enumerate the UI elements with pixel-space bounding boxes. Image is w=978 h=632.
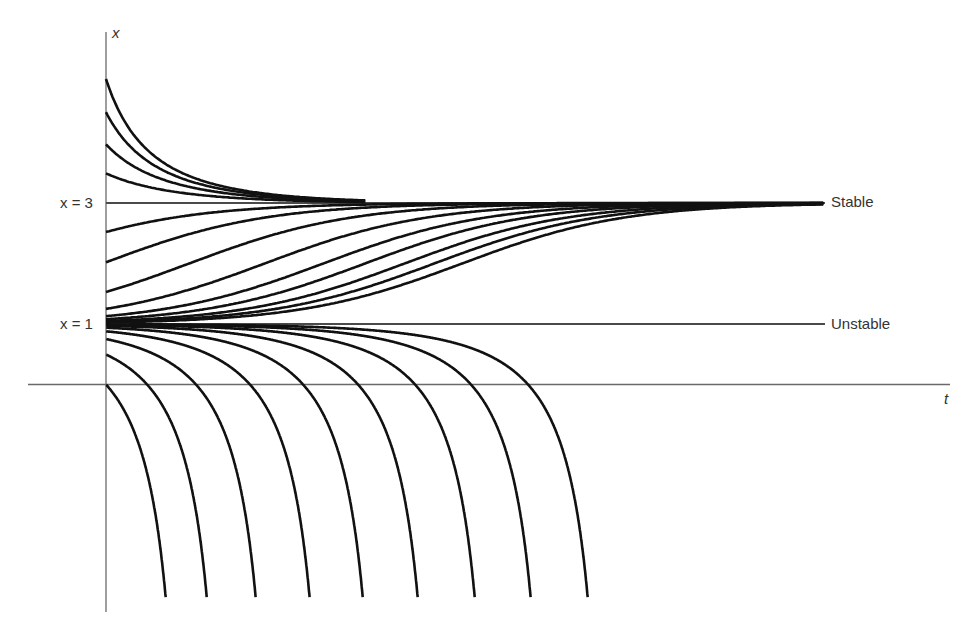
y-axis-label: x bbox=[112, 24, 120, 41]
trajectory-above-stable bbox=[106, 144, 365, 201]
trajectory-below-unstable bbox=[106, 326, 417, 597]
trajectory-between-equilibria bbox=[106, 203, 823, 292]
trajectory-between-equilibria bbox=[106, 203, 823, 309]
trajectory-below-unstable bbox=[106, 331, 309, 597]
trajectory-below-unstable bbox=[106, 355, 206, 598]
trajectory-below-unstable bbox=[106, 385, 165, 597]
equilibrium-label-3: x = 3 bbox=[60, 194, 93, 211]
unstable-label: Unstable bbox=[831, 315, 890, 332]
t-axis-label: t bbox=[944, 390, 948, 407]
trajectory-above-stable bbox=[106, 112, 365, 201]
trajectory-above-stable bbox=[106, 79, 365, 200]
trajectory-between-equilibria bbox=[106, 203, 823, 316]
trajectory-group bbox=[106, 79, 823, 597]
trajectory-below-unstable bbox=[106, 339, 255, 597]
stable-label: Stable bbox=[831, 193, 874, 210]
trajectory-below-unstable bbox=[106, 325, 530, 598]
equilibrium-label-1: x = 1 bbox=[60, 315, 93, 332]
